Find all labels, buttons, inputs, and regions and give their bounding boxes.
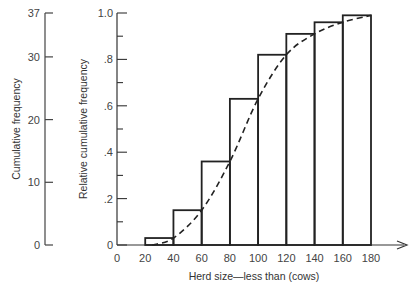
histogram-bar [343,15,371,245]
x-tick-label: 60 [196,252,208,264]
secondary-y-tick-label: 20 [28,114,40,126]
x-tick-label: 140 [305,252,323,264]
x-tick-label: 80 [224,252,236,264]
histogram-bar [286,34,314,245]
y-tick-label: .8 [104,53,113,65]
secondary-y-tick-label: 10 [28,176,40,188]
x-tick-label: 20 [139,252,151,264]
x-tick-label: 120 [277,252,295,264]
histogram-bar [230,99,258,245]
x-tick-label: 0 [114,252,120,264]
secondary-y-axis-label: Cumulative frequency [10,77,22,179]
y-axis-label: Relative cumulative frequency [77,58,89,199]
secondary-y-tick-label: 37 [28,7,40,19]
histogram-bar [315,22,343,245]
x-axis-label: Herd size—less than (cows) [189,270,320,282]
cumulative-frequency-chart: 010203037Cumulative frequency0.2.4.6.81.… [0,0,418,284]
histogram-bar [145,238,173,245]
y-tick-label: .4 [104,146,113,158]
secondary-y-tick-label: 30 [28,51,40,63]
y-tick-label: 1.0 [98,7,113,19]
x-tick-label: 180 [362,252,380,264]
secondary-y-tick-label: 0 [34,239,40,251]
x-tick-label: 40 [167,252,179,264]
x-tick-label: 100 [249,252,267,264]
x-tick-label: 160 [334,252,352,264]
histogram-bar [258,55,286,245]
y-tick-label: .2 [104,193,113,205]
y-tick-label: .6 [104,100,113,112]
y-tick-label: 0 [107,239,113,251]
